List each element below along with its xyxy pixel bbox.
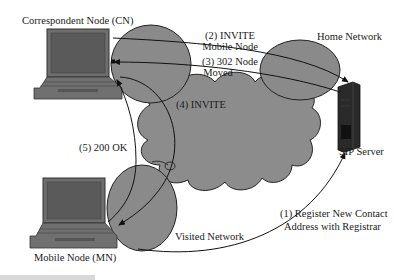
- correspondent-node-label: Correspondent Node (CN): [22, 15, 134, 27]
- message-1-line2: Address with Registrar: [284, 221, 381, 232]
- mobile-node-laptop-icon: [30, 178, 117, 248]
- message-4-label: (4) INVITE: [176, 99, 226, 111]
- message-1-line1: (1) Register New Contact: [280, 208, 388, 220]
- sip-server-tower-icon: [338, 82, 360, 152]
- home-network-label: Home Network: [317, 31, 383, 42]
- correspondent-node-laptop-icon: [34, 29, 122, 99]
- home-network-ellipse: [260, 40, 340, 100]
- sip-server-label: SIP Server: [339, 146, 384, 157]
- message-3-line2: Moved: [203, 67, 233, 78]
- message-5-label: (5) 200 OK: [79, 142, 128, 154]
- visited-network-label: Visited Network: [175, 231, 245, 242]
- message-2-line2: Mobile Node: [202, 41, 258, 52]
- sip-mobility-diagram: Correspondent Node (CN) (2) INVITE Mobil…: [0, 0, 406, 280]
- scan-edge-strip: [0, 275, 95, 280]
- mobile-node-label: Mobile Node (MN): [34, 252, 117, 264]
